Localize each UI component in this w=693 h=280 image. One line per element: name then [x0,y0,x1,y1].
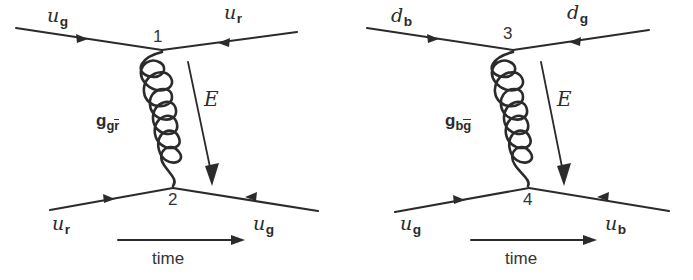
vertex-number-top: 1 [153,28,162,45]
label-incoming-bottom-particle: ug [400,214,421,237]
arrow-incoming-bottom [103,194,115,203]
label-outgoing-bottom-particle: ub [605,214,626,237]
diagram-left-svg [0,0,346,280]
gluon-propagator [141,52,181,186]
feynman-diagram-right: db dg ug ub 3 4 gbg E time [347,0,693,280]
label-incoming-bottom-particle: ur [52,214,70,237]
label-gluon: ggr [96,112,119,133]
arrow-outgoing-top [218,38,230,47]
label-outgoing-top-particle: ur [224,3,242,26]
arrow-incoming-top [76,34,88,43]
label-time-axis: time [152,250,184,267]
label-energy: E [557,89,572,109]
vertex-number-bottom: 4 [523,191,532,208]
energy-arrow [188,62,219,186]
arrow-outgoing-top [569,37,581,46]
arrow-incoming-top [427,34,439,43]
outgoing-top-line [513,30,649,50]
diagram-right-svg [347,0,693,280]
outgoing-bottom-line [529,188,669,211]
incoming-top-line [367,28,513,50]
arrow-incoming-bottom [453,195,465,204]
feynman-diagram-left: ug ur ur ug 1 2 ggr E time [0,0,346,280]
label-outgoing-top-particle: dg [567,3,588,26]
label-outgoing-bottom-particle: ug [253,214,274,237]
label-gluon: gbg [445,112,471,133]
energy-arrow [541,62,571,186]
label-time-axis: time [505,250,537,267]
time-axis-arrow [118,235,245,245]
gluon-propagator [492,52,532,186]
vertex-number-top: 3 [503,25,512,42]
label-incoming-top-particle: ug [47,6,68,29]
time-axis-arrow [471,235,597,245]
label-incoming-top-particle: db [391,6,412,29]
label-energy: E [204,89,219,109]
incoming-top-line [16,28,162,50]
feynman-diagram-figure: ug ur ur ug 1 2 ggr E time [0,0,693,280]
outgoing-bottom-line [173,188,318,211]
vertex-number-bottom: 2 [168,191,177,208]
